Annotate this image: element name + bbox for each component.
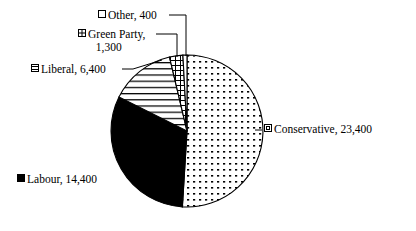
other-marker-icon — [98, 10, 106, 18]
data-label-conservative-text: Conservative, 23,400 — [274, 123, 372, 135]
data-label-green-party-text: Green Party, — [88, 28, 145, 40]
leader-line-green-party — [156, 34, 177, 57]
liberal-marker-icon — [31, 64, 39, 72]
data-label-green-party-value: 1,300 — [78, 41, 145, 55]
data-label-conservative[interactable]: Conservative, 23,400 — [264, 122, 372, 136]
green-party-marker-icon — [78, 29, 86, 37]
labour-marker-icon — [17, 174, 25, 182]
data-label-labour[interactable]: Labour, 14,400 — [17, 172, 97, 186]
data-label-liberal-text: Liberal, 6,400 — [41, 63, 106, 75]
data-label-green-party[interactable]: Green Party, 1,300 — [78, 27, 145, 55]
data-label-liberal[interactable]: Liberal, 6,400 — [31, 62, 106, 76]
pie-chart-figure: Other, 400 Green Party, 1,300 Liberal, 6… — [0, 0, 416, 231]
data-label-other-text: Other, 400 — [108, 9, 157, 21]
pie-chart-graphic — [0, 0, 416, 231]
data-label-labour-text: Labour, 14,400 — [27, 173, 97, 185]
data-label-other[interactable]: Other, 400 — [98, 8, 157, 22]
conservative-marker-icon — [264, 124, 272, 132]
pie-slices — [111, 55, 263, 207]
pie-slice-conservative[interactable] — [182, 55, 263, 207]
